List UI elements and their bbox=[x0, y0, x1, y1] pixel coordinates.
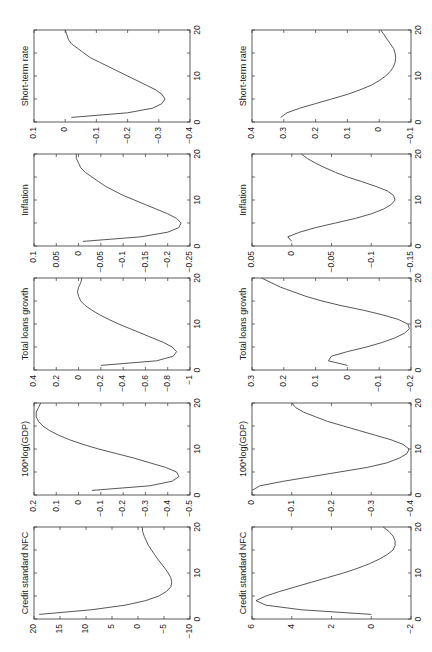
panel-short-term-rate-r1: −0.100.10.20.30.401020Short-term rate bbox=[238, 25, 423, 144]
y-tick-label: 4 bbox=[286, 624, 296, 629]
y-tick-label: −0.1 bbox=[117, 251, 127, 268]
x-tick-label: 10 bbox=[192, 195, 202, 205]
panel-title: Credit standard NFC bbox=[20, 531, 30, 614]
y-tick-label: −0.1 bbox=[91, 127, 101, 144]
x-tick-label: 20 bbox=[413, 273, 423, 283]
panel-100-log-gdp--r0: −0.5−0.4−0.3−0.2−0.100.10.201020100*log(… bbox=[20, 398, 202, 517]
panel-title: Total loans growth bbox=[20, 288, 30, 361]
y-tick-label: 20 bbox=[28, 624, 38, 634]
y-tick-label: 0.1 bbox=[310, 375, 320, 387]
y-tick-label: −0.1 bbox=[366, 251, 376, 268]
y-tick-label: 0 bbox=[73, 375, 83, 380]
y-tick-label: −1 bbox=[184, 375, 194, 385]
x-tick-label: 20 bbox=[413, 25, 423, 35]
response-curve bbox=[36, 403, 179, 490]
y-tick-label: −0.15 bbox=[405, 251, 415, 273]
y-tick-label: 0 bbox=[59, 127, 69, 132]
y-tick-label: 0 bbox=[246, 500, 256, 505]
panel-credit-standard-nfc-r1: −2024601020Credit standard NFC bbox=[238, 522, 423, 634]
y-tick-label: 0.2 bbox=[28, 500, 38, 512]
x-tick-label: 0 bbox=[413, 492, 423, 497]
y-tick-label: 0 bbox=[286, 251, 296, 256]
response-curve bbox=[39, 527, 172, 614]
y-tick-label: −0.3 bbox=[366, 500, 376, 517]
y-tick-label: 0.1 bbox=[28, 251, 38, 263]
y-tick-label: 0.1 bbox=[51, 500, 61, 512]
y-tick-label: −0.4 bbox=[184, 127, 194, 144]
y-tick-label: 0.2 bbox=[51, 375, 61, 387]
x-tick-label: 20 bbox=[192, 25, 202, 35]
x-tick-label: 10 bbox=[192, 444, 202, 454]
x-tick-label: 20 bbox=[413, 522, 423, 532]
x-tick-label: 0 bbox=[192, 616, 202, 621]
x-tick-label: 10 bbox=[192, 319, 202, 329]
y-tick-label: −0.2 bbox=[122, 127, 132, 144]
x-tick-label: 0 bbox=[192, 243, 202, 248]
y-tick-label: −0.8 bbox=[162, 375, 172, 392]
plot-frame bbox=[252, 30, 411, 122]
y-tick-label: −0.1 bbox=[286, 500, 296, 517]
y-tick-label: 15 bbox=[54, 624, 64, 634]
y-tick-label: 0.05 bbox=[246, 251, 256, 268]
response-curve bbox=[78, 278, 177, 365]
plot-frame bbox=[252, 154, 411, 246]
x-tick-label: 10 bbox=[192, 71, 202, 81]
y-tick-label: 0.4 bbox=[28, 375, 38, 387]
panel-credit-standard-nfc-r0: −10−50510152001020Credit standard NFC bbox=[20, 522, 202, 638]
response-curve bbox=[288, 154, 395, 241]
impulse-response-figure: −10−50510152001020Credit standard NFC−0.… bbox=[0, 0, 432, 652]
y-tick-label: −5 bbox=[158, 624, 168, 634]
response-curve bbox=[65, 30, 165, 117]
panel-total-loans-growth-r0: −1−0.8−0.6−0.4−0.200.20.401020Total loan… bbox=[20, 273, 202, 392]
plot-frame bbox=[34, 527, 190, 619]
x-tick-label: 0 bbox=[192, 367, 202, 372]
response-curve bbox=[262, 278, 410, 365]
y-tick-label: 0 bbox=[366, 624, 376, 629]
y-tick-label: 0 bbox=[342, 375, 352, 380]
y-tick-label: −0.6 bbox=[140, 375, 150, 392]
y-tick-label: −0.5 bbox=[184, 500, 194, 517]
y-tick-label: 0.1 bbox=[342, 127, 352, 139]
y-tick-label: 0 bbox=[73, 500, 83, 505]
x-tick-label: 10 bbox=[413, 568, 423, 578]
x-tick-label: 0 bbox=[192, 492, 202, 497]
y-tick-label: −0.1 bbox=[405, 127, 415, 144]
y-tick-label: 0.3 bbox=[278, 127, 288, 139]
plot-frame bbox=[252, 403, 411, 495]
panel-title: Credit standard NFC bbox=[238, 531, 248, 614]
x-tick-label: 10 bbox=[413, 71, 423, 81]
y-tick-label: 2 bbox=[326, 624, 336, 629]
y-tick-label: −0.3 bbox=[153, 127, 163, 144]
y-tick-label: 6 bbox=[246, 624, 256, 629]
plot-frame bbox=[34, 30, 190, 122]
panel-title: 100*log(GDP) bbox=[238, 421, 248, 477]
y-tick-label: −0.4 bbox=[405, 500, 415, 517]
y-tick-label: 0.1 bbox=[28, 127, 38, 139]
panel-total-loans-growth-r1: −0.2−0.100.10.20.301020Total loans growt… bbox=[238, 273, 423, 392]
y-tick-label: 0.3 bbox=[246, 375, 256, 387]
y-tick-label: −0.05 bbox=[95, 251, 105, 273]
response-curve bbox=[256, 527, 395, 614]
y-tick-label: −0.3 bbox=[140, 500, 150, 517]
response-curve bbox=[76, 154, 181, 241]
x-tick-label: 0 bbox=[413, 119, 423, 124]
plot-frame bbox=[34, 403, 190, 495]
y-tick-label: 0 bbox=[373, 127, 383, 132]
x-tick-label: 0 bbox=[413, 367, 423, 372]
panel-inflation-r0: −0.25−0.2−0.15−0.1−0.0500.050.101020Infl… bbox=[20, 149, 202, 273]
y-tick-label: −0.2 bbox=[326, 500, 336, 517]
y-tick-label: −0.25 bbox=[184, 251, 194, 273]
y-tick-label: −0.2 bbox=[117, 500, 127, 517]
y-tick-label: 0 bbox=[73, 251, 83, 256]
panel-title: 100*log(GDP) bbox=[20, 421, 30, 477]
y-tick-label: −0.4 bbox=[117, 375, 127, 392]
y-tick-label: 10 bbox=[80, 624, 90, 634]
y-tick-label: −0.4 bbox=[162, 500, 172, 517]
response-curve bbox=[281, 30, 396, 117]
y-tick-label: 5 bbox=[106, 624, 116, 629]
panel-title: Short-term rate bbox=[20, 46, 30, 107]
panel-title: Short-term rate bbox=[238, 46, 248, 107]
x-tick-label: 0 bbox=[413, 243, 423, 248]
y-tick-label: −0.2 bbox=[405, 375, 415, 392]
y-tick-label: −0.2 bbox=[162, 251, 172, 268]
